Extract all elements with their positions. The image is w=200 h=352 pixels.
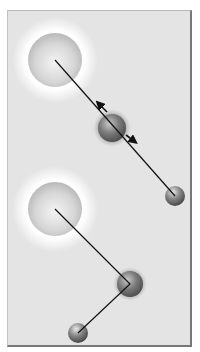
- configuration-bottom: [12, 166, 147, 343]
- molecule-diagram: [0, 0, 200, 352]
- medium-atom-top: [98, 114, 126, 142]
